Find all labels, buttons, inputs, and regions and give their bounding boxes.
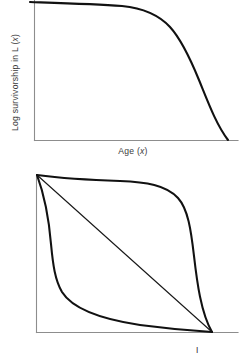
top-y-axis-label-variable: x (10, 37, 20, 42)
top-chart-plot (0, 0, 245, 168)
top-y-axis-label-suffix: ) (10, 34, 20, 37)
curve-label-type-one: I (196, 346, 199, 354)
bottom-chart-plot (0, 168, 245, 363)
top-chart-panel: Log survivorship in L (x) Age (x) (0, 0, 245, 168)
top-x-axis-label-suffix: ) (145, 146, 148, 156)
top-survivorship-curve (30, 2, 228, 140)
top-y-axis-label-prefix: Log survivorship in L ( (10, 42, 20, 132)
top-x-axis-label: Age (x) (98, 147, 168, 156)
bottom-curve-type-two (37, 175, 212, 332)
survivorship-figure: Log survivorship in L (x) Age (x) Log su… (0, 0, 245, 363)
top-x-axis-label-prefix: Age ( (118, 146, 140, 156)
top-y-axis-label: Log survivorship in L (x) (11, 34, 20, 131)
bottom-chart-panel: Log survivorship Age (x) I II III (0, 168, 245, 363)
